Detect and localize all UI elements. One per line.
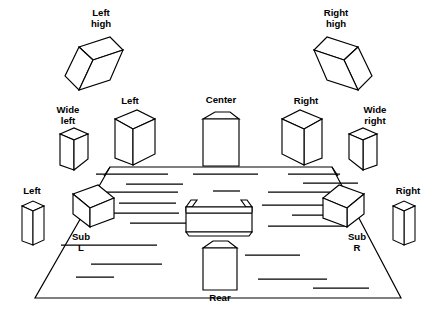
- rear-front-face: [203, 248, 237, 290]
- label-wide-right-line1: Wide: [364, 104, 387, 115]
- speaker-right-high: [314, 37, 372, 90]
- label-center: Center: [206, 94, 237, 105]
- speaker-front-left: [115, 110, 155, 165]
- surround-right-front-face: [393, 206, 404, 245]
- label-front-left: Left: [121, 95, 139, 106]
- label-front-right: Right: [294, 95, 319, 106]
- label-left-high-line1: Left: [92, 7, 110, 18]
- sofa-base: [186, 232, 252, 236]
- label-sub-left-line1: Sub: [72, 231, 90, 242]
- speaker-layout-diagram: Left high Right high Wide left Left: [0, 0, 437, 315]
- speaker-wide-left: [60, 128, 88, 170]
- surround-right-side-face: [404, 206, 415, 245]
- wide-left-front-face: [60, 134, 74, 170]
- center-top-face: [203, 112, 239, 119]
- surround-left-side-face: [33, 206, 44, 245]
- center-front-face: [203, 119, 239, 166]
- speaker-surround-left: [22, 201, 44, 245]
- speaker-front-right: [282, 110, 322, 165]
- speaker-wide-right: [349, 128, 377, 170]
- label-wide-left-line1: Wide: [57, 104, 80, 115]
- label-wide-right-line2: right: [364, 115, 386, 126]
- label-surround-left: Left: [23, 185, 41, 196]
- label-left-high-line2: high: [91, 18, 111, 29]
- speaker-left-high: [65, 37, 123, 90]
- label-surround-right: Right: [396, 185, 421, 196]
- wide-right-front-face: [349, 134, 363, 170]
- label-sub-right-line2: R: [354, 242, 361, 253]
- label-rear: Rear: [209, 292, 231, 303]
- wide-left-side-face: [74, 134, 88, 170]
- speaker-rear: [203, 241, 237, 290]
- speaker-surround-right: [393, 201, 415, 245]
- label-wide-left-line2: left: [61, 115, 76, 126]
- speaker-layout-svg: Left high Right high Wide left Left: [0, 0, 437, 315]
- label-right-high-line2: high: [326, 18, 346, 29]
- speaker-center: [203, 112, 239, 166]
- sofa-body: [186, 207, 252, 232]
- label-right-high-line1: Right: [324, 7, 349, 18]
- label-sub-left-line2: L: [78, 242, 84, 253]
- label-sub-right-line1: Sub: [348, 231, 366, 242]
- wide-right-side-face: [363, 134, 377, 170]
- surround-left-front-face: [22, 206, 33, 245]
